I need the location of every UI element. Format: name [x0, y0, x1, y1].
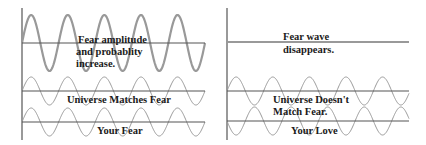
left-bottom-label: Your Fear	[97, 125, 143, 136]
right-middle-label-line1: Universe Doesn't	[273, 94, 349, 105]
right-top-label-line2: disappears.	[283, 44, 334, 55]
right-top-label-line1: Fear wave	[283, 31, 329, 42]
left-top-label-line1: Fear amplitude	[78, 34, 147, 45]
left-top-label-line3: increase.	[76, 58, 115, 69]
right-bottom-label: Your Love	[291, 125, 338, 136]
left-middle-label: Universe Matches Fear	[67, 94, 171, 105]
wave-diagram	[0, 0, 426, 145]
left-top-label-line2: and probablity	[76, 46, 143, 57]
right-middle-label-line2: Match Fear.	[273, 106, 327, 117]
